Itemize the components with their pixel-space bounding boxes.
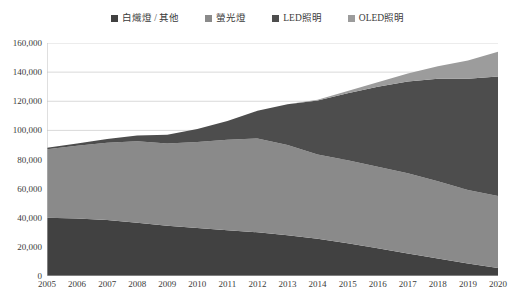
x-tick-label-9: 2014 — [309, 279, 327, 289]
area-series-group — [47, 52, 498, 276]
legend-swatch-incandescent-other — [111, 15, 118, 22]
legend-item-1[interactable]: 螢光燈 — [205, 13, 246, 24]
x-tick-label-12: 2017 — [399, 279, 417, 289]
x-tick-label-10: 2015 — [339, 279, 357, 289]
x-tick-label-15: 2020 — [489, 279, 507, 289]
legend-label-1: 螢光燈 — [216, 13, 246, 24]
x-tick-label-4: 2009 — [158, 279, 176, 289]
x-tick-label-14: 2019 — [459, 279, 477, 289]
y-tick-label-4: 80,000 — [17, 155, 42, 165]
legend-item-2[interactable]: LED照明 — [272, 13, 321, 24]
y-tick-label-0: 160,000 — [13, 38, 42, 48]
y-tick-label-1: 140,000 — [13, 67, 42, 77]
legend-item-3[interactable]: OLED照明 — [348, 13, 404, 24]
y-tick-label-7: 20,000 — [17, 242, 42, 252]
plot-svg — [47, 43, 498, 276]
plot-area — [47, 43, 498, 276]
chart-legend: 白熾燈 / 其他螢光燈LED照明OLED照明 — [0, 13, 515, 24]
legend-swatch-oled — [348, 15, 355, 22]
x-tick-label-0: 2005 — [38, 279, 56, 289]
legend-item-0[interactable]: 白熾燈 / 其他 — [111, 13, 179, 24]
stacked-area-chart: 白熾燈 / 其他螢光燈LED照明OLED照明 160,000140,000120… — [0, 0, 515, 305]
x-tick-label-7: 2012 — [248, 279, 266, 289]
legend-swatch-led — [272, 15, 279, 22]
y-axis-labels: 160,000140,000120,000100,00080,00060,000… — [0, 43, 42, 276]
x-tick-label-11: 2016 — [369, 279, 387, 289]
legend-label-0: 白熾燈 / 其他 — [122, 13, 179, 24]
y-tick-label-6: 40,000 — [17, 213, 42, 223]
x-tick-label-5: 2010 — [188, 279, 206, 289]
y-tick-label-5: 60,000 — [17, 184, 42, 194]
legend-label-3: OLED照明 — [359, 13, 404, 24]
legend-label-2: LED照明 — [283, 13, 321, 24]
x-tick-label-6: 2011 — [219, 279, 237, 289]
x-axis-labels: 2005200620072008200920102011201220132014… — [47, 279, 498, 297]
x-tick-label-3: 2008 — [128, 279, 146, 289]
x-tick-label-2: 2007 — [98, 279, 116, 289]
legend-swatch-fluorescent — [205, 15, 212, 22]
y-tick-label-3: 100,000 — [13, 125, 42, 135]
x-tick-label-13: 2018 — [429, 279, 447, 289]
y-tick-label-2: 120,000 — [13, 96, 42, 106]
x-tick-label-8: 2013 — [279, 279, 297, 289]
x-tick-label-1: 2006 — [68, 279, 86, 289]
